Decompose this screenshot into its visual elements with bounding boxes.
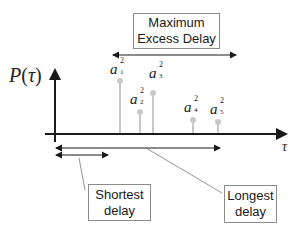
tap-symbol: a <box>149 65 157 81</box>
max-excess-delay-callout: Maximum Excess Delay <box>133 13 220 49</box>
y-label-func: P <box>9 64 21 86</box>
tap-sup: 2 <box>159 60 163 69</box>
callout-line: Maximum <box>134 15 219 31</box>
tap-sup: 2 <box>194 94 198 103</box>
tap-sup: 2 <box>140 86 144 95</box>
tap-sup: 2 <box>120 56 124 65</box>
callout-line: delay <box>225 204 276 220</box>
tap-label-a5: a 2 5 <box>210 100 218 118</box>
tap-sub: 2 <box>140 98 144 106</box>
shortest-delay-callout: Shortest delay <box>88 184 151 221</box>
tap-label-a4: a 2 4 <box>184 98 192 116</box>
callout-line: Excess Delay <box>134 31 219 47</box>
tap-sub: 3 <box>159 72 163 80</box>
y-axis-label: P(τ) <box>9 64 42 87</box>
tap-sub: 5 <box>220 108 224 116</box>
y-label-open: ( <box>21 64 28 86</box>
tap-sub: 1 <box>120 68 124 76</box>
tap-symbol: a <box>110 61 118 77</box>
tap-sup: 2 <box>220 96 224 105</box>
callout-line: delay <box>89 203 150 219</box>
tap-label-a1: a 2 1 <box>110 60 118 78</box>
tap-symbol: a <box>210 101 218 117</box>
y-label-var: τ <box>28 64 35 86</box>
longest-delay-callout: Longest delay <box>224 185 277 223</box>
y-label-close: ) <box>35 64 42 86</box>
shortest-leader-line <box>79 158 85 190</box>
callout-line: Longest <box>225 188 276 204</box>
tap-symbol: a <box>184 99 192 115</box>
callout-line: Shortest <box>89 187 150 203</box>
tap-label-a3: a 2 3 <box>149 64 157 82</box>
tap-symbol: a <box>130 91 138 107</box>
tap-label-a2: a 2 2 <box>130 90 138 108</box>
longest-leader-line <box>146 148 222 193</box>
tap-sub: 4 <box>194 106 198 114</box>
x-axis-label: τ <box>282 139 287 155</box>
